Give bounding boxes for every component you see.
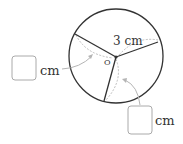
answer-box-left[interactable]: [12, 56, 36, 80]
unit-label-left: cm: [40, 63, 60, 78]
unit-label-right: cm: [155, 113, 175, 128]
answer-box-right[interactable]: [128, 106, 152, 134]
circle-diagram: 3 cm O cm cm: [0, 0, 183, 144]
center-point: [114, 55, 117, 58]
radius-upper-left: [75, 34, 116, 57]
arrowhead-left: [88, 54, 93, 59]
guide-arc-left: [76, 35, 113, 58]
radius-label: 3 cm: [113, 34, 143, 48]
connector-left: [62, 56, 92, 69]
arrowhead-right: [122, 78, 127, 83]
center-label: O: [104, 58, 111, 67]
